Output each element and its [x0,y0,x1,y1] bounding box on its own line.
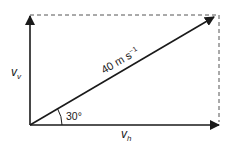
horizontal-component-label: vh [121,127,132,143]
resultant-label: 40 m s−1 [99,45,141,76]
vector-diagram: 30° 40 m s−1 vv vh [0,0,235,149]
vertical-component-label: vv [11,65,22,81]
angle-label: 30° [66,110,82,122]
angle-arc [58,109,62,125]
